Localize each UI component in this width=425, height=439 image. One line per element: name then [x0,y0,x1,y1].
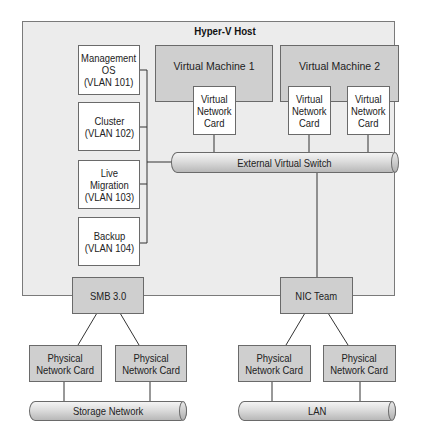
virtual-network-card-label: Virtual Network Card [197,93,232,129]
pipe-end-cap [179,401,187,421]
physical-network-card-label: Physical Network Card [37,352,95,376]
virtual-network-card-label: Virtual Network Card [351,93,386,129]
storage-network: Storage Network [29,401,187,421]
vlan-adapter-label: Live Migration (VLAN 103) [84,167,133,203]
storage-network-label: Storage Network [73,405,143,417]
vlan-adapter-backup: Backup (VLAN 104) [78,217,140,266]
vlan-adapter-label: Management OS (VLAN 101) [81,52,136,88]
pipe-end-cap [391,152,399,173]
virtual-machine-label: Virtual Machine 2 [281,60,398,72]
vlan-adapter-label: Cluster (VLAN 102) [84,115,133,139]
virtual-network-card-vm1: Virtual Network Card [193,86,236,135]
pipe-end-cap [388,401,396,421]
lan-network: LAN [238,401,396,421]
external-virtual-switch-label: External Virtual Switch [237,157,331,169]
smb-label: SMB 3.0 [90,290,126,302]
physical-network-card-storage-1: Physical Network Card [29,345,102,382]
virtual-network-card-vm2-b: Virtual Network Card [347,86,390,135]
vlan-adapter-cluster: Cluster (VLAN 102) [78,102,140,151]
smb-3-box: SMB 3.0 [72,277,144,314]
virtual-network-card-label: Virtual Network Card [292,93,327,129]
nic-team-box: NIC Team [280,277,353,314]
physical-network-card-lan-1: Physical Network Card [238,345,311,382]
nic-team-label: NIC Team [296,290,338,302]
physical-network-card-storage-2: Physical Network Card [115,345,187,382]
physical-network-card-lan-2: Physical Network Card [323,345,396,382]
vlan-adapter-management-os: Management OS (VLAN 101) [78,45,140,95]
lan-network-label: LAN [308,405,326,417]
external-virtual-switch: External Virtual Switch [171,152,398,173]
physical-network-card-label: Physical Network Card [331,352,389,376]
virtual-network-card-vm2-a: Virtual Network Card [288,86,331,135]
vlan-adapter-label: Backup (VLAN 104) [84,230,133,254]
physical-network-card-label: Physical Network Card [122,352,180,376]
virtual-machine-label: Virtual Machine 1 [156,60,272,72]
physical-network-card-label: Physical Network Card [246,352,304,376]
vlan-adapter-live-migration: Live Migration (VLAN 103) [78,160,140,209]
